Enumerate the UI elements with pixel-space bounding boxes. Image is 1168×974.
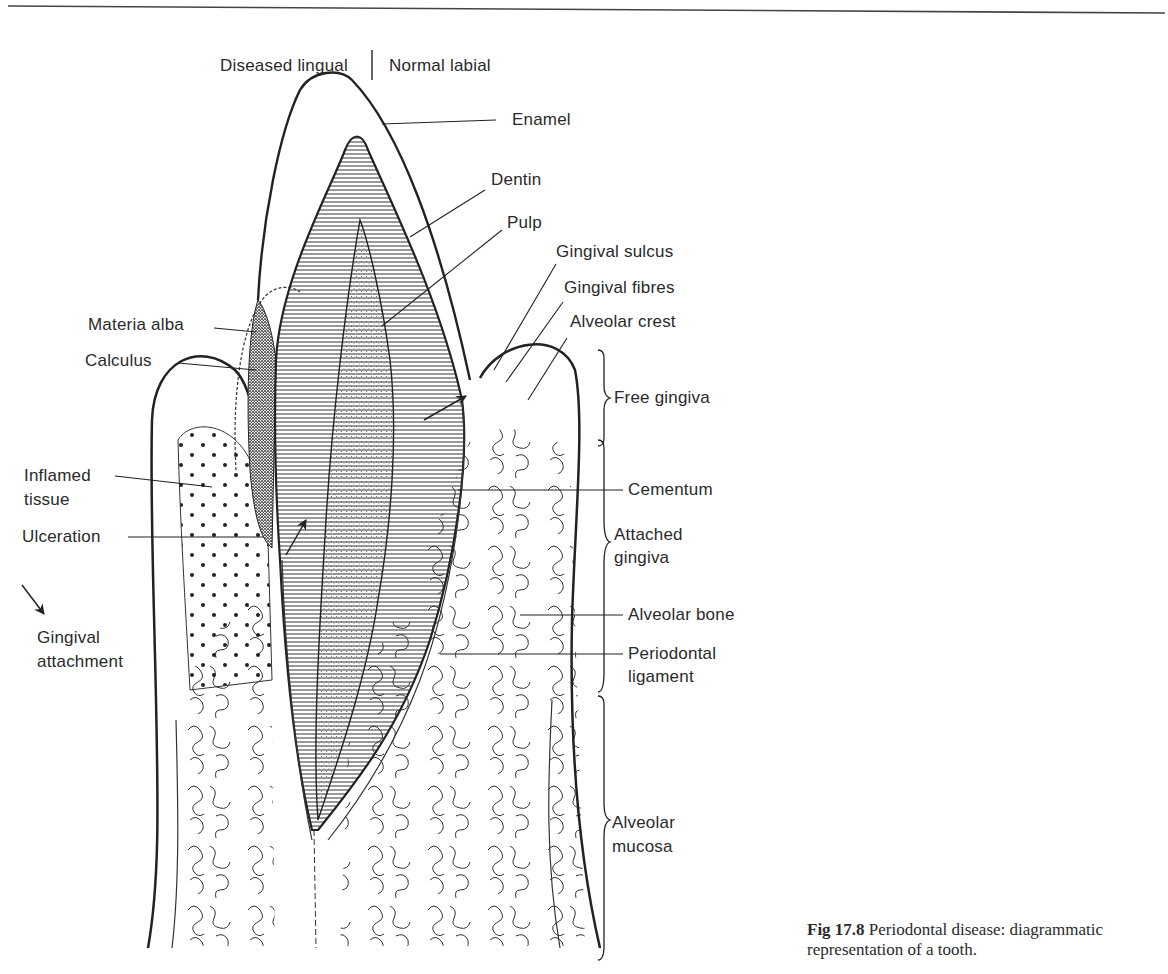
label-alveolar-mucosa-line2: mucosa bbox=[612, 836, 673, 858]
label-normal-labial: Normal labial bbox=[389, 55, 491, 77]
label-inflamed-tissue-line2: tissue bbox=[24, 489, 70, 511]
label-attached-gingiva-line1: Attached bbox=[614, 524, 683, 546]
leader-calculus bbox=[178, 363, 256, 370]
top-rule bbox=[8, 6, 1165, 13]
leader-gingival-fibres bbox=[506, 302, 563, 382]
leader-gingival-sulcus bbox=[494, 264, 556, 370]
label-alveolar-bone: Alveolar bone bbox=[628, 604, 735, 626]
label-alveolar-mucosa-line1: Alveolar bbox=[612, 812, 675, 834]
label-gingival-fibres: Gingival fibres bbox=[564, 277, 675, 299]
leader-alveolar-crest bbox=[528, 338, 567, 400]
label-periodontal-ligament-line2: ligament bbox=[628, 666, 694, 688]
leader-materia-alba bbox=[214, 328, 256, 332]
label-gingival-attachment-line1: Gingival bbox=[37, 627, 100, 649]
label-diseased-lingual: Diseased lingual bbox=[220, 55, 348, 77]
brace-free-gingiva bbox=[598, 350, 610, 446]
figure-page: Diseased lingual Normal labial Enamel De… bbox=[0, 0, 1168, 974]
label-calculus: Calculus bbox=[85, 350, 152, 372]
figure-number: Fig 17.8 bbox=[807, 920, 865, 939]
brace-alveolar-mucosa bbox=[598, 696, 610, 960]
figure-caption: Fig 17.8 Periodontal disease: diagrammat… bbox=[807, 920, 1167, 960]
label-free-gingiva: Free gingiva bbox=[614, 387, 710, 409]
gingival-attachment-arrow bbox=[22, 585, 44, 614]
leader-enamel bbox=[382, 120, 496, 124]
label-periodontal-ligament-line1: Periodontal bbox=[628, 643, 716, 665]
label-enamel: Enamel bbox=[512, 109, 571, 131]
label-dentin: Dentin bbox=[491, 169, 541, 191]
label-materia-alba: Materia alba bbox=[88, 314, 184, 336]
label-pulp: Pulp bbox=[507, 212, 542, 234]
label-inflamed-tissue-line1: Inflamed bbox=[24, 465, 91, 487]
label-cementum: Cementum bbox=[628, 479, 713, 501]
label-gingival-sulcus: Gingival sulcus bbox=[556, 241, 673, 263]
label-gingival-attachment-line2: attachment bbox=[37, 651, 123, 673]
tooth-diagram bbox=[0, 0, 1168, 974]
label-alveolar-crest: Alveolar crest bbox=[570, 311, 676, 333]
label-attached-gingiva-line2: gingiva bbox=[614, 547, 669, 569]
label-ulceration: Ulceration bbox=[22, 526, 101, 548]
